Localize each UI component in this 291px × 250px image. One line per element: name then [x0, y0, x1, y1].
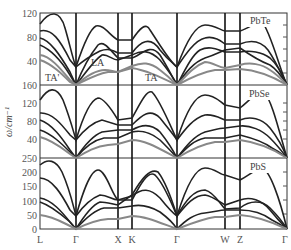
y-tick: 80 — [27, 32, 37, 43]
y-tick: 80 — [27, 116, 37, 127]
y-tick: 120 — [22, 98, 37, 109]
y-tick: 250 — [22, 153, 37, 164]
x-tick: Γ — [73, 234, 79, 245]
y-tick: 120 — [22, 8, 37, 19]
x-ticks: L Γ X K Γ W Z Γ — [37, 234, 288, 245]
right-ticks — [283, 25, 287, 214]
x-tick: L — [37, 234, 43, 245]
y-tick: 160 — [22, 80, 37, 91]
x-tick: Γ — [282, 234, 288, 245]
panel-label-pbse: PbSe — [249, 88, 270, 99]
y-axis-label: ω/cm⁻¹ — [3, 107, 14, 137]
y-tick: 100 — [22, 196, 37, 207]
panel-frames — [40, 13, 287, 229]
x-tick: Z — [237, 234, 243, 245]
x-tick: Γ — [174, 234, 180, 245]
panel-label-pbs: PbS — [250, 161, 266, 172]
pbse-curves — [40, 90, 287, 158]
x-tick: X — [114, 234, 122, 245]
panel-label-pbte: PbTe — [250, 15, 271, 26]
phonon-dispersion-chart: 120 80 40 160 120 80 40 250 200 150 100 … — [0, 0, 291, 250]
annotation-ta-prime: TA' — [45, 72, 60, 83]
y-ticks-pbse: 160 120 80 40 — [22, 80, 37, 145]
x-tick: W — [220, 234, 230, 245]
y-tick: 40 — [27, 134, 37, 145]
y-ticks-pbte: 120 80 40 — [22, 8, 37, 67]
x-tick: K — [128, 234, 136, 245]
annotation-ta: TA — [145, 72, 158, 83]
y-tick: 150 — [22, 181, 37, 192]
annotation-la: LA — [91, 57, 105, 68]
y-ticks-pbs: 250 200 150 100 50 0 — [22, 153, 37, 235]
y-tick: 40 — [27, 56, 37, 67]
y-tick: 50 — [27, 210, 37, 221]
y-tick: 200 — [22, 167, 37, 178]
